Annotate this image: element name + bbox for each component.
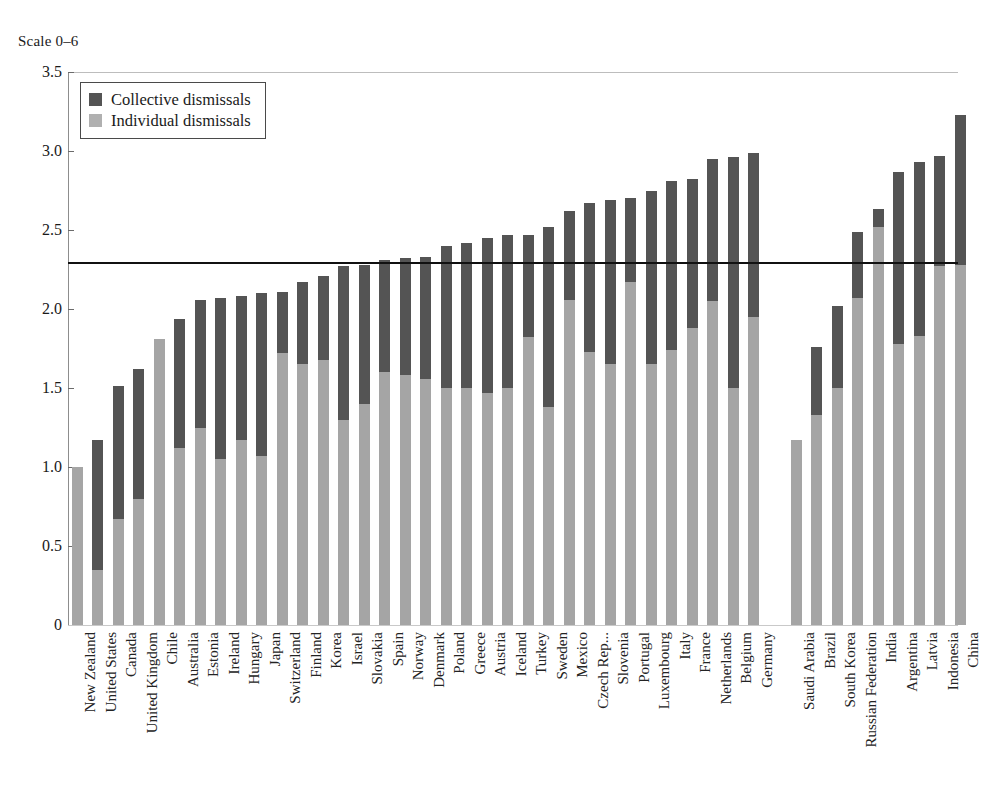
bar-column[interactable]: [748, 72, 759, 625]
bar-column[interactable]: [791, 72, 802, 625]
bar-segment-collective[interactable]: [215, 298, 226, 459]
bar-column[interactable]: [666, 72, 677, 625]
bar-segment-collective[interactable]: [707, 159, 718, 301]
bar-column[interactable]: [934, 72, 945, 625]
bar-segment-collective[interactable]: [359, 265, 370, 404]
bar-column[interactable]: [379, 72, 390, 625]
bar-segment-individual[interactable]: [873, 227, 884, 625]
bar-segment-collective[interactable]: [420, 257, 431, 379]
bar-column[interactable]: [482, 72, 493, 625]
bar-segment-collective[interactable]: [195, 300, 206, 428]
bar-column[interactable]: [543, 72, 554, 625]
bar-column[interactable]: [584, 72, 595, 625]
bar-column[interactable]: [646, 72, 657, 625]
bar-segment-individual[interactable]: [420, 379, 431, 625]
bar-column[interactable]: [811, 72, 822, 625]
bar-segment-individual[interactable]: [461, 388, 472, 625]
bar-column[interactable]: [502, 72, 513, 625]
bar-segment-collective[interactable]: [379, 260, 390, 372]
bar-segment-collective[interactable]: [687, 179, 698, 328]
bar-segment-individual[interactable]: [379, 372, 390, 625]
bar-segment-collective[interactable]: [92, 440, 103, 570]
bar-segment-collective[interactable]: [461, 243, 472, 388]
bar-segment-individual[interactable]: [215, 459, 226, 625]
bar-segment-collective[interactable]: [914, 162, 925, 336]
bar-segment-collective[interactable]: [666, 181, 677, 350]
bar-segment-individual[interactable]: [113, 519, 124, 625]
bar-segment-collective[interactable]: [811, 347, 822, 415]
bar-segment-collective[interactable]: [297, 282, 308, 364]
bar-segment-collective[interactable]: [441, 246, 452, 388]
bar-column[interactable]: [154, 72, 165, 625]
bar-segment-individual[interactable]: [92, 570, 103, 625]
bar-column[interactable]: [728, 72, 739, 625]
bar-segment-collective[interactable]: [934, 156, 945, 267]
bar-column[interactable]: [707, 72, 718, 625]
bar-column[interactable]: [338, 72, 349, 625]
bar-column[interactable]: [955, 72, 966, 625]
bar-segment-individual[interactable]: [625, 282, 636, 625]
bar-segment-individual[interactable]: [195, 428, 206, 626]
bar-column[interactable]: [523, 72, 534, 625]
bar-column[interactable]: [832, 72, 843, 625]
bar-segment-individual[interactable]: [441, 388, 452, 625]
bar-segment-individual[interactable]: [400, 375, 411, 625]
bar-column[interactable]: [400, 72, 411, 625]
bar-segment-collective[interactable]: [236, 296, 247, 440]
bar-segment-collective[interactable]: [277, 292, 288, 354]
bar-segment-individual[interactable]: [482, 393, 493, 625]
bar-segment-collective[interactable]: [748, 153, 759, 317]
bar-column[interactable]: [92, 72, 103, 625]
bar-segment-individual[interactable]: [318, 360, 329, 625]
bar-segment-collective[interactable]: [955, 115, 966, 265]
bar-segment-individual[interactable]: [359, 404, 370, 625]
bar-column[interactable]: [441, 72, 452, 625]
bar-segment-individual[interactable]: [174, 448, 185, 625]
bar-segment-collective[interactable]: [646, 191, 657, 365]
bar-column[interactable]: [625, 72, 636, 625]
bar-column[interactable]: [195, 72, 206, 625]
bar-segment-collective[interactable]: [318, 276, 329, 360]
bar-column[interactable]: [687, 72, 698, 625]
bar-column[interactable]: [113, 72, 124, 625]
bar-segment-individual[interactable]: [687, 328, 698, 625]
bar-segment-individual[interactable]: [893, 344, 904, 625]
bar-segment-collective[interactable]: [873, 209, 884, 226]
bar-segment-individual[interactable]: [338, 420, 349, 625]
bar-segment-individual[interactable]: [811, 415, 822, 625]
bar-segment-individual[interactable]: [955, 265, 966, 625]
bar-segment-individual[interactable]: [707, 301, 718, 625]
bar-segment-individual[interactable]: [236, 440, 247, 625]
bar-segment-collective[interactable]: [482, 238, 493, 393]
bar-column[interactable]: [318, 72, 329, 625]
bar-segment-individual[interactable]: [256, 456, 267, 625]
bar-segment-collective[interactable]: [113, 386, 124, 519]
bar-segment-individual[interactable]: [502, 388, 513, 625]
bar-segment-individual[interactable]: [154, 339, 165, 625]
bar-column[interactable]: [914, 72, 925, 625]
bar-segment-individual[interactable]: [564, 300, 575, 625]
bar-segment-collective[interactable]: [584, 203, 595, 352]
bar-segment-collective[interactable]: [502, 235, 513, 388]
bar-segment-individual[interactable]: [297, 364, 308, 625]
bar-segment-collective[interactable]: [523, 235, 534, 338]
bar-segment-collective[interactable]: [543, 227, 554, 407]
bar-segment-collective[interactable]: [625, 198, 636, 282]
bar-segment-collective[interactable]: [338, 266, 349, 419]
bar-column[interactable]: [297, 72, 308, 625]
bar-column[interactable]: [852, 72, 863, 625]
bar-column[interactable]: [256, 72, 267, 625]
bar-segment-individual[interactable]: [666, 350, 677, 625]
bar-column[interactable]: [72, 72, 83, 625]
bar-column[interactable]: [420, 72, 431, 625]
bar-segment-individual[interactable]: [748, 317, 759, 625]
bar-column[interactable]: [133, 72, 144, 625]
bar-column[interactable]: [277, 72, 288, 625]
bar-segment-collective[interactable]: [605, 200, 616, 364]
bar-column[interactable]: [605, 72, 616, 625]
bar-segment-collective[interactable]: [133, 369, 144, 499]
bar-column[interactable]: [236, 72, 247, 625]
bar-segment-collective[interactable]: [728, 157, 739, 388]
bar-column[interactable]: [359, 72, 370, 625]
bar-segment-individual[interactable]: [72, 467, 83, 625]
